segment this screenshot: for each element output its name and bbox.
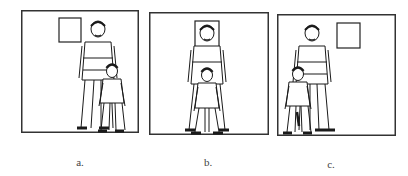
window-square xyxy=(59,18,81,42)
caption-b: b. xyxy=(204,156,212,168)
caption-a: a. xyxy=(76,156,84,168)
caption-c: c. xyxy=(327,158,335,170)
panel-c xyxy=(277,14,396,136)
window-square xyxy=(337,23,360,48)
panel-a-drawing xyxy=(21,10,139,133)
panel-b-drawing xyxy=(149,12,269,135)
panel-c-drawing xyxy=(277,14,396,136)
panel-a xyxy=(21,10,139,133)
panel-b xyxy=(149,12,269,135)
